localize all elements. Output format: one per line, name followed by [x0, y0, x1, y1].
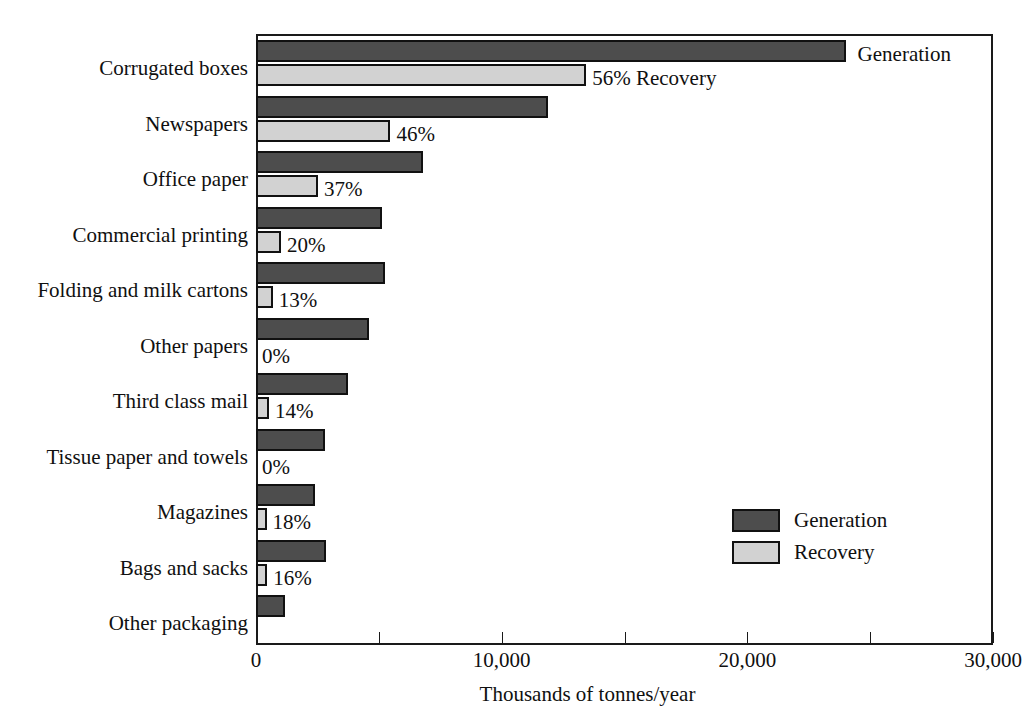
x-tick-major [993, 632, 994, 643]
x-tick-major [747, 632, 748, 643]
category-label: Other papers [0, 335, 248, 357]
recovery-percent-label: 37% [324, 179, 363, 200]
bar-generation [256, 595, 285, 617]
category-label: Bags and sacks [0, 557, 248, 579]
x-tick-label: 0 [251, 650, 262, 671]
x-tick-label: 20,000 [718, 650, 776, 671]
x-tick-major [502, 632, 503, 643]
legend-item-recovery: Recovery [732, 536, 962, 568]
recovery-percent-label: 56% Recovery [592, 68, 716, 89]
x-axis-title-text: Thousands of tonnes/year [480, 682, 696, 706]
category-label: Magazines [0, 501, 248, 523]
category-label: Third class mail [0, 390, 248, 412]
bar-recovery [256, 286, 273, 308]
x-tick-minor [870, 632, 871, 643]
x-tick-major [256, 632, 257, 643]
bar-generation [256, 96, 548, 118]
legend-swatch-generation [732, 509, 780, 532]
legend-label-recovery: Recovery [794, 542, 874, 563]
bar-generation [256, 373, 348, 395]
bar-generation [256, 262, 385, 284]
x-axis-title: Thousands of tonnes/year [0, 684, 1035, 705]
bar-generation [256, 484, 315, 506]
bar-recovery [256, 64, 586, 86]
x-tick-label: 10,000 [473, 650, 531, 671]
category-label: Folding and milk cartons [0, 279, 248, 301]
bar-generation [256, 151, 423, 173]
bar-generation [256, 207, 382, 229]
legend-swatch-recovery [732, 541, 780, 564]
x-tick-minor [625, 632, 626, 643]
legend-label-generation: Generation [794, 510, 887, 531]
bar-recovery [256, 397, 269, 419]
recovery-percent-label: 0% [262, 346, 290, 367]
category-label: Tissue paper and towels [0, 446, 248, 468]
category-label: Newspapers [0, 113, 248, 135]
bar-recovery [256, 564, 267, 586]
x-tick-label: 30,000 [964, 650, 1022, 671]
bar-generation [256, 540, 326, 562]
bar-recovery [256, 231, 281, 253]
recovery-percent-label: 18% [273, 512, 312, 533]
legend: Generation Recovery [732, 504, 962, 568]
category-label: Office paper [0, 168, 248, 190]
category-label: Commercial printing [0, 224, 248, 246]
bar-recovery [256, 120, 390, 142]
recovery-percent-label: 16% [273, 568, 312, 589]
bar-generation [256, 429, 325, 451]
bar-chart: Corrugated boxesNewspapersOffice paperCo… [0, 0, 1035, 717]
legend-item-generation: Generation [732, 504, 962, 536]
recovery-percent-label: 20% [287, 235, 326, 256]
recovery-percent-label: 46% [396, 124, 435, 145]
bar-recovery [256, 175, 318, 197]
recovery-percent-label: 14% [275, 401, 314, 422]
category-label: Other packaging [0, 612, 248, 634]
bar-generation [256, 318, 369, 340]
recovery-percent-label: 13% [279, 290, 318, 311]
category-label: Corrugated boxes [0, 57, 248, 79]
bar-recovery [256, 508, 267, 530]
generation-callout-label: Generation [858, 44, 951, 65]
x-tick-minor [379, 632, 380, 643]
recovery-percent-label: 0% [262, 457, 290, 478]
bar-generation [256, 40, 846, 62]
